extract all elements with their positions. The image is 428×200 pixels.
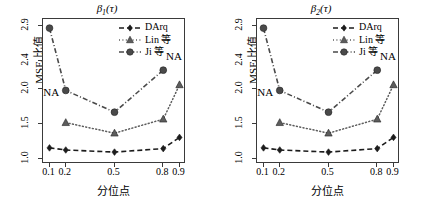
y-tick-label: 1.0 — [19, 145, 30, 171]
legend-key-triangle-icon — [118, 32, 142, 44]
legend-key-triangle-icon — [332, 32, 356, 44]
y-tick-label: 1.0 — [233, 145, 244, 171]
x-tick-label: 0.9 — [381, 166, 405, 177]
data-point-Lin-等 — [276, 119, 283, 126]
x-axis-label-beta2: 分位点 — [256, 182, 399, 198]
data-point-DArq — [391, 134, 396, 141]
x-tick-label: 0.9 — [167, 166, 191, 177]
na-annotation: NA — [380, 50, 396, 62]
data-point-Lin-等 — [160, 115, 167, 122]
data-point-DArq — [161, 145, 166, 152]
na-annotation: NA — [166, 50, 182, 62]
data-point-Ji-等 — [276, 87, 283, 94]
panel-title-argument: (τ) — [320, 2, 331, 14]
data-point-Ji-等 — [160, 67, 167, 74]
series-line-Lin-等 — [66, 85, 180, 133]
y-tick-label: 2.9 — [233, 12, 244, 38]
data-point-Lin-等 — [390, 81, 397, 88]
x-axis-label-beta1: 分位点 — [42, 182, 185, 198]
data-point-Lin-等 — [62, 119, 69, 126]
data-point-DArq — [326, 149, 331, 156]
na-annotation: NA — [257, 86, 273, 98]
chart-panel-beta1: β1(τ) MSE 比值 分位点 1.01.52.02.42.90.10.20.… — [0, 0, 214, 200]
data-point-DArq — [375, 145, 380, 152]
legend-key-diamond-icon — [332, 20, 356, 32]
data-point-Lin-等 — [374, 115, 381, 122]
data-point-DArq — [112, 149, 117, 156]
data-point-Lin-等 — [176, 81, 183, 88]
y-tick-label: 2.0 — [233, 75, 244, 101]
legend-key-circle-icon — [332, 44, 356, 56]
panel-title-beta2: β2(τ) — [214, 2, 428, 17]
series-line-Lin-等 — [280, 85, 394, 133]
x-tick-label: 0.5 — [102, 166, 126, 177]
data-point-DArq — [47, 145, 52, 152]
data-point-DArq — [177, 134, 182, 141]
x-tick-label: 0.5 — [316, 166, 340, 177]
x-tick-label: 0.2 — [53, 166, 77, 177]
data-point-Ji-等 — [260, 25, 267, 32]
data-point-DArq — [261, 145, 266, 152]
data-point-DArq — [63, 147, 68, 154]
y-tick-label: 2.4 — [19, 47, 30, 73]
legend-key-circle-icon — [118, 44, 142, 56]
legend-label: Ji 等 — [356, 43, 378, 58]
y-tick-label: 2.4 — [233, 47, 244, 73]
panel-title-beta1: β1(τ) — [0, 2, 214, 17]
na-annotation: NA — [43, 86, 59, 98]
figure-root: β1(τ) MSE 比值 分位点 1.01.52.02.42.90.10.20.… — [0, 0, 428, 200]
y-tick-label: 2.0 — [19, 75, 30, 101]
legend-key-diamond-icon — [118, 20, 142, 32]
data-point-Ji-等 — [46, 25, 53, 32]
legend-label: Ji 等 — [142, 43, 164, 58]
y-tick-label: 1.5 — [233, 110, 244, 136]
data-point-DArq — [277, 147, 282, 154]
panel-title-argument: (τ) — [106, 2, 117, 14]
data-point-Ji-等 — [111, 109, 118, 116]
y-tick-label: 2.9 — [19, 12, 30, 38]
data-point-Ji-等 — [62, 87, 69, 94]
x-tick-label: 0.2 — [267, 166, 291, 177]
chart-panel-beta2: β2(τ) MSE 比值 分位点 1.01.52.02.42.90.10.20.… — [214, 0, 428, 200]
data-point-Ji-等 — [325, 109, 332, 116]
y-tick-label: 1.5 — [19, 110, 30, 136]
data-point-Ji-等 — [374, 67, 381, 74]
